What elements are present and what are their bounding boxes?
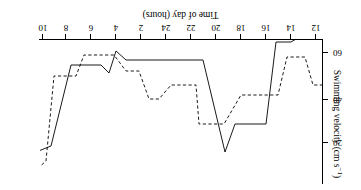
series-dashed-trace [40,55,323,170]
x-tick-label-4: 20 [203,23,229,33]
rotated-figure-container: 12 14 16 18 20 22 24 2 4 6 8 10 20 40 60… [0,0,361,190]
x-tick-label-0: 12 [303,23,329,33]
x-tick-label-7: 2 [128,23,154,33]
x-tick-label-5: 22 [178,23,204,33]
y-axis-title-main: Swimming velocity (cm s [332,70,342,168]
x-tick-label-9: 6 [78,23,104,33]
x-tick-label-8: 4 [103,23,129,33]
traces-svg [40,39,323,184]
x-tick-label-2: 16 [253,23,279,33]
x-tick-label-3: 18 [228,23,254,33]
y-axis-title: Swimming velocity (cm s−1) [332,39,344,190]
series-solid-trace [40,39,323,152]
x-axis-title: Time of day (hours) [0,10,361,20]
y-axis-title-exponent: −1 [336,168,344,175]
x-tick-label-10: 8 [53,23,79,33]
x-tick-label-1: 14 [278,23,304,33]
x-tick-label-6: 24 [153,23,179,33]
x-tick-label-11: 10 [30,23,56,33]
figure-panel: 12 14 16 18 20 22 24 2 4 6 8 10 20 40 60… [0,0,361,190]
plot-area [40,39,323,184]
y-axis-title-close: ) [332,175,342,178]
